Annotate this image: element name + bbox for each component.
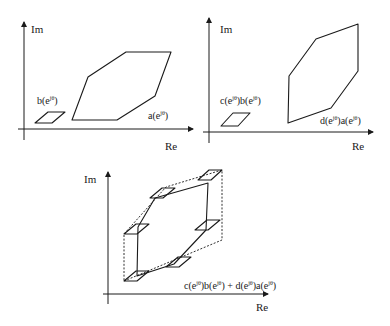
figure-canvas: Im Re b(ejθ) a(ejθ) Im Re c(ejθ)b(ejθ) d… xyxy=(0,0,390,326)
parallelogram-v3 xyxy=(195,220,220,230)
b-label: b(ejθ) xyxy=(37,95,58,107)
real-axis-label: Re xyxy=(352,140,364,152)
panel-bottom: Im Re c(ejθ)b(ejθ) + d(ejθ)a(ejθ) xyxy=(84,170,276,313)
da-label: d(ejθ)a(ejθ) xyxy=(320,115,361,127)
sum-label: c(ejθ)b(ejθ) + d(ejθ)a(ejθ) xyxy=(184,280,276,292)
panel-top-left: Im Re b(ejθ) a(ejθ) xyxy=(18,22,193,152)
cb-parallelogram xyxy=(221,113,250,126)
real-axis-label: Re xyxy=(256,301,268,313)
parallelogram-v6 xyxy=(124,224,149,234)
da-hexagon xyxy=(288,24,358,123)
imag-axis-label: Im xyxy=(84,173,97,185)
real-axis-label: Re xyxy=(165,140,177,152)
b-parallelogram xyxy=(35,112,65,123)
imag-axis-label: Im xyxy=(220,23,233,35)
cb-label: c(ejθ)b(ejθ) xyxy=(220,95,261,107)
panel-top-right: Im Re c(ejθ)b(ejθ) d(ejθ)a(ejθ) xyxy=(203,18,373,152)
a-label: a(ejθ) xyxy=(148,110,168,122)
imag-axis-label: Im xyxy=(31,23,44,35)
